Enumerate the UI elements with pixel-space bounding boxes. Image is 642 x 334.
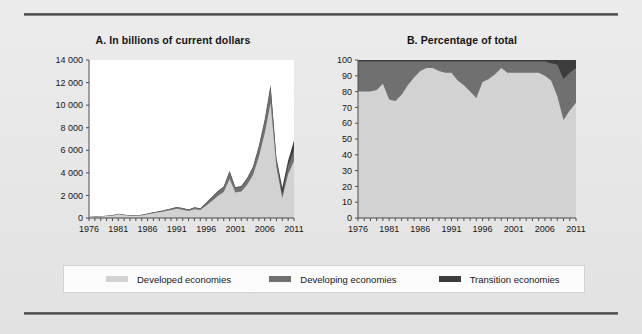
svg-a-y-tick-label: 2 000	[60, 191, 83, 201]
top-rule	[24, 13, 618, 16]
legend-item-transition: Transition economies	[415, 274, 584, 285]
svg-b-x-tick-label: 2006	[535, 224, 555, 234]
panel-a-title: A. In billions of current dollars	[42, 34, 304, 46]
svg-a-y-tick-label: 0	[78, 213, 83, 223]
svg-b-y-tick-label: 50	[342, 134, 352, 144]
legend-item-developing: Developing economies	[251, 274, 414, 285]
svg-a-y-tick-label: 10 000	[55, 100, 83, 110]
svg-b-y-tick-label: 30	[342, 166, 352, 176]
svg-b-x-tick-label: 1976	[348, 224, 368, 234]
legend-swatch-transition	[439, 276, 461, 282]
svg-a-x-tick-label: 1981	[108, 224, 128, 234]
legend-swatch-developing	[269, 276, 291, 282]
svg-a-x-tick-label: 2006	[255, 224, 275, 234]
svg-a-y-tick-label: 4 000	[60, 168, 83, 178]
legend-swatch-developed	[106, 276, 128, 282]
legend-item-developed: Developed economies	[64, 274, 251, 285]
svg-b-x-tick-label: 1986	[410, 224, 430, 234]
legend-label-developing: Developing economies	[300, 274, 396, 285]
svg-b-x-tick-label: 1991	[441, 224, 461, 234]
legend-label-developed: Developed economies	[137, 274, 231, 285]
svg-b-x-tick-label: 2011	[566, 224, 585, 234]
svg-b-x-tick-label: 2001	[504, 224, 524, 234]
svg-a-x-tick-label: 2001	[225, 224, 245, 234]
svg-b-y-tick-label: 100	[337, 55, 352, 65]
svg-a-y-tick-label: 12 000	[55, 78, 83, 88]
svg-b-x-tick-label: 1981	[379, 224, 399, 234]
svg-a-y-tick-label: 14 000	[55, 55, 83, 65]
chart-legend: Developed economies Developing economies…	[63, 265, 585, 293]
panel-b-title: B. Percentage of total	[324, 34, 600, 46]
svg-b-y-tick-label: 60	[342, 118, 352, 128]
bottom-rule	[24, 312, 618, 315]
svg-b-y-tick-label: 10	[342, 197, 352, 207]
panel-a-plot: 14 00012 00010 0008 0006 0004 0002 00001…	[42, 52, 304, 242]
svg-b-y-tick-label: 70	[342, 103, 352, 113]
svg-a-x-tick-label: 1996	[196, 224, 216, 234]
svg-a-x-tick-label: 2011	[284, 224, 303, 234]
svg-a-x-tick-label: 1986	[138, 224, 158, 234]
svg-a-x-tick-label: 1991	[167, 224, 187, 234]
panel-b-svg: 1009080706050403020100197619811986199119…	[324, 52, 600, 242]
svg-a-y-tick-label: 8 000	[60, 123, 83, 133]
svg-b-y-tick-label: 40	[342, 150, 352, 160]
panel-b-plot: 1009080706050403020100197619811986199119…	[324, 52, 600, 242]
svg-b-y-tick-label: 80	[342, 87, 352, 97]
svg-a-x-tick-label: 1976	[79, 224, 99, 234]
svg-b-x-tick-label: 1996	[473, 224, 493, 234]
svg-a-y-tick-label: 6 000	[60, 145, 83, 155]
panel-a-svg: 14 00012 00010 0008 0006 0004 0002 00001…	[42, 52, 304, 242]
svg-b-y-tick-label: 20	[342, 182, 352, 192]
legend-label-transition: Transition economies	[470, 274, 560, 285]
figure-body: A. In billions of current dollars 14 000…	[24, 22, 618, 306]
svg-b-y-tick-label: 0	[347, 213, 352, 223]
figure-page: A. In billions of current dollars 14 000…	[0, 0, 642, 334]
svg-b-y-tick-label: 90	[342, 71, 352, 81]
